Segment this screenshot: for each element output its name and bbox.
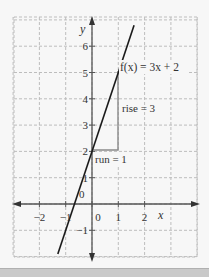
x-tick-label: 1 bbox=[116, 211, 122, 223]
y-axis-label: y bbox=[79, 22, 86, 36]
x-tick-label: 0 bbox=[95, 211, 101, 223]
y-tick-label: 1 bbox=[83, 172, 89, 184]
y-tick-label: −1 bbox=[76, 224, 88, 236]
rise-label: rise = 3 bbox=[122, 102, 156, 114]
y-tick-label: 0 bbox=[79, 188, 85, 200]
x-axis-arrow-right-icon bbox=[191, 201, 200, 207]
y-tick-label: 5 bbox=[83, 67, 89, 79]
y-tick-label: 3 bbox=[83, 119, 89, 131]
x-axis-label: x bbox=[157, 208, 164, 222]
x-tick-label: −2 bbox=[34, 211, 46, 223]
y-tick-label: 2 bbox=[83, 145, 89, 157]
y-tick-label: 6 bbox=[83, 40, 89, 52]
function-label: f(x) = 3x + 2 bbox=[120, 61, 179, 74]
x-tick-label: 2 bbox=[142, 211, 148, 223]
bottom-border bbox=[0, 268, 209, 277]
x-axis-arrow-left-icon bbox=[12, 201, 21, 207]
run-label: run = 1 bbox=[95, 153, 127, 165]
y-tick-label: 4 bbox=[83, 93, 89, 105]
x-tick-label: −1 bbox=[60, 211, 72, 223]
axes bbox=[12, 16, 200, 262]
